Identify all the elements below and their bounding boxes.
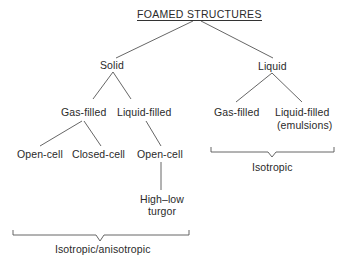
node-turgor-line1: High–low <box>140 193 184 205</box>
node-liquid-open-cell: Open-cell <box>137 148 183 160</box>
diagram-title: FOAMED STRUCTURES <box>137 8 262 21</box>
node-solid-liquid-filled: Liquid-filled <box>117 106 171 118</box>
edge-solid-gas <box>93 72 113 99</box>
label-isotropic-anisotropic: Isotropic/anisotropic <box>55 243 150 255</box>
node-solid-gas-filled: Gas-filled <box>61 106 106 118</box>
node-turgor-line2: turgor <box>148 205 176 217</box>
edge-root-solid <box>116 21 193 58</box>
edge-gas-closed <box>84 121 101 146</box>
edge-liquid-gas <box>236 73 272 102</box>
node-liquid-gas-filled: Gas-filled <box>214 106 259 118</box>
node-liquid: Liquid <box>258 60 287 72</box>
node-liquid-liquid-filled: Liquid-filled <box>275 106 329 118</box>
node-emulsions: (emulsions) <box>277 119 332 131</box>
node-solid: Solid <box>100 59 124 71</box>
edge-solid-liquid <box>113 72 131 99</box>
edge-liquid-liquid <box>272 73 302 102</box>
bracket-solid <box>13 230 189 241</box>
bracket-liquid <box>211 147 334 157</box>
label-isotropic: Isotropic <box>252 161 293 173</box>
node-gas-open-cell: Open-cell <box>17 148 63 160</box>
edge-root-liquid <box>201 21 273 58</box>
edge-liquidfilled-open <box>146 121 161 146</box>
edge-gas-open <box>40 121 82 146</box>
node-gas-closed-cell: Closed-cell <box>72 148 125 160</box>
tree-connectors <box>0 0 342 265</box>
foamed-structures-diagram: FOAMED STRUCTURES Solid Liquid Gas-fille… <box>0 0 342 265</box>
